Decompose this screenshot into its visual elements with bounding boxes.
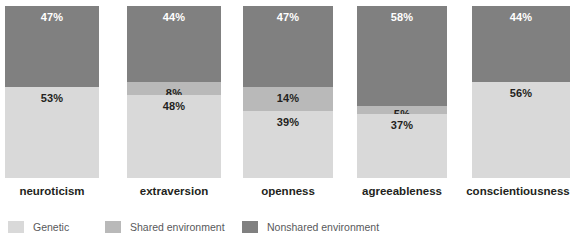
segment-nonshared-environment[interactable]: 58% [357,6,447,106]
category-axis: neuroticism extraversion openness agreea… [0,185,576,205]
legend-item-nonshared-environment[interactable]: Nonshared environment [242,219,379,235]
legend-swatch-icon [8,221,24,233]
category-label-conscientiousness: conscientiousness [460,185,576,197]
category-label-extraversion: extraversion [122,185,226,197]
segment-shared-environment[interactable]: 5% [357,106,447,115]
segment-nonshared-environment[interactable]: 47% [243,6,333,87]
bar-stack: 47% 14% 39% [243,6,333,178]
segment-value-label: 58% [391,6,414,23]
legend-item-genetic[interactable]: Genetic [8,219,69,235]
segment-genetic[interactable]: 37% [357,114,447,178]
segment-value-label: 44% [163,6,186,23]
bar-group-agreeableness[interactable]: 58% 5% 37% [357,6,447,178]
legend-label: Nonshared environment [267,222,379,233]
bar-stack: 47% 53% [5,6,99,178]
segment-nonshared-environment[interactable]: 47% [5,6,99,87]
segment-value-label: 5% [394,106,410,115]
segment-value-label: 53% [41,87,64,104]
segment-genetic[interactable]: 48% [127,95,221,178]
category-label-neuroticism: neuroticism [0,185,104,197]
segment-value-label: 8% [166,82,182,96]
segment-genetic[interactable]: 53% [5,87,99,178]
segment-genetic[interactable]: 56% [472,82,570,178]
legend: Genetic Shared environment Nonshared env… [0,219,576,239]
segment-value-label: 14% [277,87,300,104]
segment-value-label: 44% [510,6,533,23]
legend-item-shared-environment[interactable]: Shared environment [105,219,225,235]
category-label-agreeableness: agreeableness [350,185,454,197]
bar-stack: 58% 5% 37% [357,6,447,178]
segment-nonshared-environment[interactable]: 44% [127,6,221,82]
segment-nonshared-environment[interactable]: 44% [472,6,570,82]
legend-swatch-icon [242,221,258,233]
segment-value-label: 39% [277,111,300,128]
bar-stack: 44% 56% [472,6,570,178]
category-label-openness: openness [236,185,340,197]
legend-label: Shared environment [130,222,225,233]
plot-area: 47% 53% 44% 8% 48% [0,0,576,182]
segment-shared-environment[interactable]: 14% [243,87,333,111]
bar-group-neuroticism[interactable]: 47% 53% [5,6,99,178]
segment-value-label: 47% [277,6,300,23]
segment-value-label: 48% [163,95,186,112]
segment-shared-environment[interactable]: 8% [127,82,221,96]
segment-genetic[interactable]: 39% [243,111,333,178]
bar-stack: 44% 8% 48% [127,6,221,178]
legend-label: Genetic [33,222,69,233]
stacked-bar-chart: 47% 53% 44% 8% 48% [0,0,576,239]
segment-value-label: 37% [391,114,414,131]
bar-group-conscientiousness[interactable]: 44% 56% [472,6,570,178]
bar-group-extraversion[interactable]: 44% 8% 48% [127,6,221,178]
bar-group-openness[interactable]: 47% 14% 39% [243,6,333,178]
segment-value-label: 56% [510,82,533,99]
legend-swatch-icon [105,221,121,233]
segment-value-label: 47% [41,6,64,23]
